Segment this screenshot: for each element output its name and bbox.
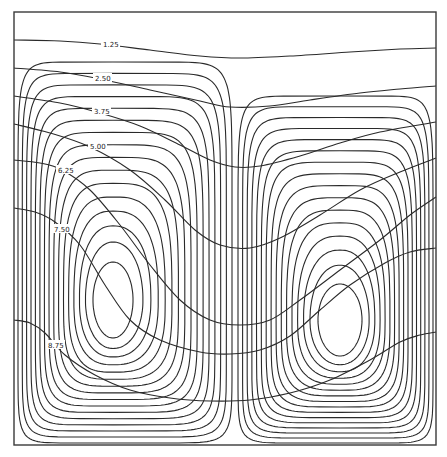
- isotherm-label: 3.75: [94, 108, 110, 116]
- isotherm-label: 6.25: [58, 167, 74, 175]
- isotherm-label: 2.50: [95, 75, 111, 83]
- isotherm-label: 1.25: [103, 41, 119, 49]
- contour-plot: 1.252.503.755.006.257.508.75: [0, 0, 447, 457]
- isotherm-label: 7.50: [54, 226, 70, 234]
- isotherm-label: 5.00: [90, 143, 106, 151]
- isotherm-label: 8.75: [48, 342, 64, 350]
